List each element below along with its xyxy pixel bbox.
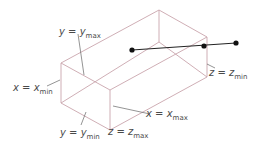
label-sub: min: [234, 73, 247, 81]
label-sub: max: [86, 32, 101, 40]
label-y-min: y = ymin: [60, 128, 100, 138]
edge-top-back: [159, 10, 207, 37]
label-sub: max: [173, 114, 188, 122]
line-segment: [129, 40, 238, 52]
label-rhs: y: [80, 26, 86, 37]
label-sub: min: [40, 88, 53, 96]
label-eq: =: [152, 108, 167, 119]
label-sub: min: [87, 133, 100, 141]
label-eq: =: [19, 82, 34, 93]
label-x-min: x = xmin: [13, 83, 53, 93]
label-eq: =: [65, 26, 80, 37]
label-eq: =: [113, 126, 128, 137]
label-y-max: y = ymax: [59, 27, 101, 37]
intersection-point: [201, 43, 206, 48]
label-rhs: x: [167, 108, 173, 119]
edge-front-top: [61, 63, 110, 90]
label-rhs: x: [34, 82, 40, 93]
segment-line: [132, 43, 236, 50]
leader-y-max: [78, 34, 84, 75]
label-eq: =: [214, 67, 229, 78]
leader-x-max: [113, 106, 150, 114]
label-z-min: z = zmin: [209, 68, 247, 78]
label-eq: =: [66, 127, 81, 138]
inside-point: [129, 47, 134, 52]
outside-point: [233, 40, 238, 45]
label-sub: max: [133, 132, 148, 140]
label-z-max: z = zmax: [108, 127, 149, 137]
edge-bottom-right: [110, 77, 207, 130]
label-rhs: y: [81, 127, 87, 138]
label-x-max: x = xmax: [146, 109, 188, 119]
edge-front-bottom: [61, 103, 110, 130]
